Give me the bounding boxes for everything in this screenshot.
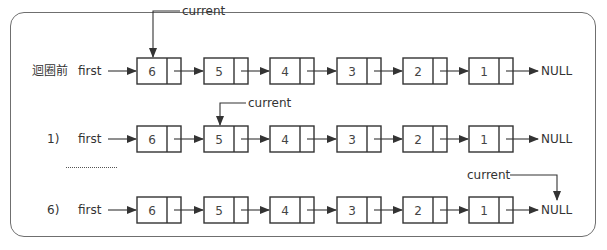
svg-text:1: 1 — [480, 204, 488, 218]
first-pointer-label: first — [78, 203, 102, 217]
svg-text:1: 1 — [480, 133, 488, 147]
svg-text:5: 5 — [215, 133, 223, 147]
current-pointer-label: current — [182, 4, 226, 18]
null-terminal: NULL — [541, 203, 572, 217]
svg-text:3: 3 — [348, 65, 356, 79]
row-label: 迴圈前 — [32, 63, 68, 78]
first-pointer-label: first — [78, 64, 102, 78]
null-terminal: NULL — [541, 64, 572, 78]
svg-text:2: 2 — [414, 65, 422, 79]
null-terminal: NULL — [541, 132, 572, 146]
svg-text:3: 3 — [348, 204, 356, 218]
row-label: 6) — [47, 203, 59, 217]
current-arrow-icon — [510, 175, 557, 200]
first-pointer-label: first — [78, 132, 102, 146]
svg-text:3: 3 — [348, 133, 356, 147]
svg-text:4: 4 — [281, 204, 289, 218]
row-step-6: 6) first current 6 5 4 3 — [47, 168, 572, 223]
row-before-loop: 迴圈前 first current 6 5 4 3 — [32, 4, 572, 84]
svg-text:5: 5 — [215, 204, 223, 218]
svg-text:4: 4 — [281, 65, 289, 79]
linked-list-diagram: 迴圈前 first current 6 5 4 3 — [0, 0, 607, 250]
svg-text:6: 6 — [148, 204, 156, 218]
current-arrow-icon — [220, 103, 246, 125]
svg-text:2: 2 — [414, 133, 422, 147]
svg-text:1: 1 — [480, 65, 488, 79]
row-step-1: 1) first current 6 5 4 3 — [47, 96, 572, 152]
svg-text:2: 2 — [414, 204, 422, 218]
current-arrow-icon — [153, 11, 180, 57]
svg-text:6: 6 — [148, 65, 156, 79]
svg-text:4: 4 — [281, 133, 289, 147]
svg-text:5: 5 — [215, 65, 223, 79]
row-label: 1) — [47, 132, 59, 146]
svg-text:6: 6 — [148, 133, 156, 147]
current-pointer-label: current — [248, 96, 292, 110]
current-pointer-label: current — [467, 168, 511, 182]
